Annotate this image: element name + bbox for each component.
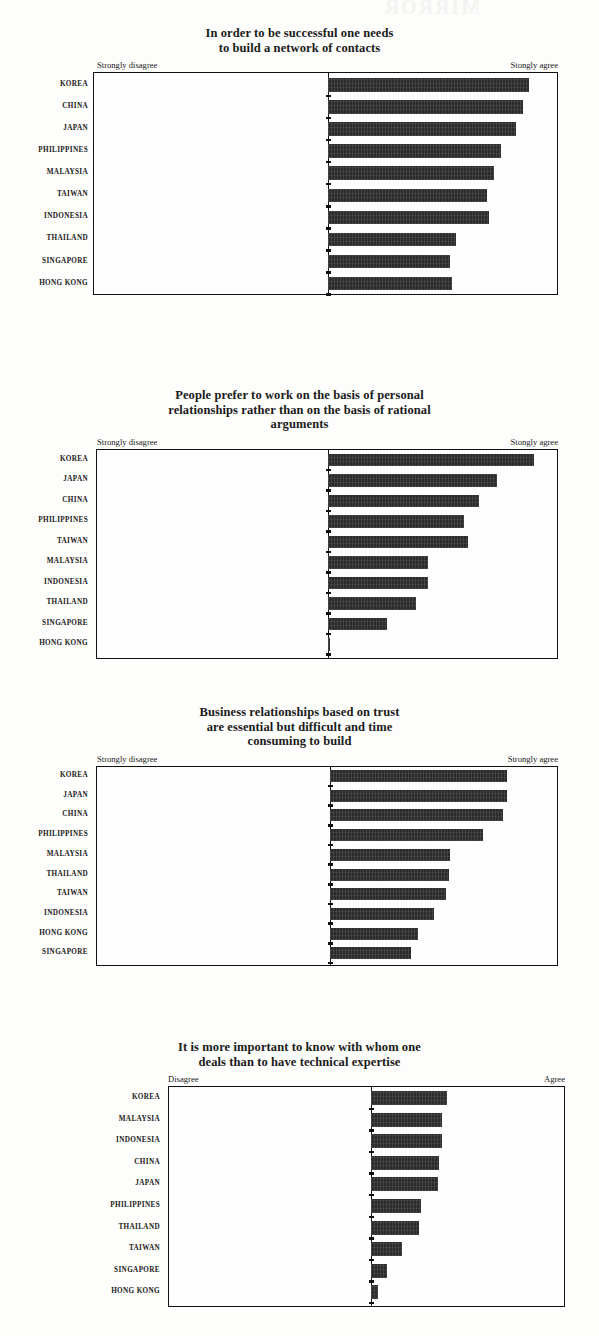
chart-4-title: It is more important to know with whom o…: [0, 1040, 599, 1069]
category-label: INDONESIA: [44, 578, 88, 586]
category-label: MALAYSIA: [47, 850, 88, 858]
category-label: JAPAN: [63, 791, 88, 799]
bar: [328, 233, 456, 247]
axis-tick: [369, 1259, 374, 1262]
bar: [330, 908, 434, 920]
bar: [328, 618, 387, 631]
chart-3-axis-label-left: Strongly disagree: [97, 753, 157, 766]
axis-tick: [328, 922, 333, 925]
category-label: MALAYSIA: [47, 168, 88, 176]
chart-1-plot-wrap: KOREACHINAJAPANPHILIPPINESMALAYSIATAIWAN…: [0, 72, 599, 300]
axis-tick: [326, 612, 331, 615]
axis-tick: [326, 117, 331, 120]
category-label: INDONESIA: [44, 212, 88, 220]
bar: [371, 1134, 442, 1148]
chart-2-plot-wrap: KOREAJAPANCHINAPHILIPPINESTAIWANMALAYSIA…: [0, 449, 599, 664]
axis-tick: [369, 1151, 374, 1154]
category-label: TAIWAN: [57, 190, 88, 198]
chart-business-relationships-trust: Business relationships based on trust ar…: [0, 705, 599, 971]
axis-tick: [328, 903, 333, 906]
axis-tick: [326, 633, 331, 636]
chart-2-axis-label-left: Strongly disagree: [97, 436, 157, 449]
chart-1-axis-labels: Strongly disagree Stongly agree: [97, 59, 558, 72]
bar: [328, 100, 523, 114]
chart-1-axis-label-left: Strongly disagree: [97, 59, 157, 72]
axis-tick: [326, 510, 331, 513]
chart-4-axis-labels: Disagree Agree: [168, 1073, 565, 1086]
axis-tick: [328, 863, 333, 866]
category-label: KOREA: [132, 1093, 160, 1101]
bar: [328, 144, 501, 158]
bar: [328, 255, 450, 269]
bar: [328, 474, 497, 487]
category-label: PHILIPPINES: [110, 1201, 160, 1209]
chart-4-plot-wrap: KOREAMALAYSIAINDONESIACHINAJAPANPHILIPPI…: [0, 1086, 599, 1312]
figure-page: MIRROR In order to be successful one nee…: [0, 0, 599, 1336]
axis-tick: [326, 95, 331, 98]
axis-tick: [326, 161, 331, 164]
category-label: PHILIPPINES: [38, 516, 88, 524]
bar: [328, 577, 428, 590]
bar: [371, 1156, 439, 1170]
bar: [328, 515, 464, 528]
axis-tick: [326, 489, 331, 492]
axis-tick: [326, 469, 331, 472]
category-label: HONG KONG: [111, 1287, 160, 1295]
axis-tick: [326, 653, 331, 656]
category-label: THAILAND: [46, 870, 88, 878]
bar: [328, 211, 489, 225]
axis-tick: [326, 205, 331, 208]
chart-4-axis-label-left: Disagree: [168, 1073, 199, 1086]
category-label: JAPAN: [63, 475, 88, 483]
bar: [330, 790, 507, 802]
category-label: PHILIPPINES: [38, 146, 88, 154]
bar: [328, 122, 516, 136]
bar: [371, 1113, 442, 1127]
category-label: SINGAPORE: [114, 1266, 160, 1274]
bar: [328, 189, 487, 203]
chart-4-axis-label-right: Agree: [544, 1073, 565, 1086]
chart-personal-relationships: People prefer to work on the basis of pe…: [0, 388, 599, 664]
category-label: JAPAN: [63, 124, 88, 132]
category-label: JAPAN: [135, 1179, 160, 1187]
chart-2-axis-label-right: Stongly agree: [511, 436, 559, 449]
category-label: SINGAPORE: [42, 619, 88, 627]
bar: [330, 829, 483, 841]
axis-tick: [326, 571, 331, 574]
chart-3-title: Business relationships based on trust ar…: [0, 705, 599, 749]
category-label: CHINA: [62, 810, 88, 818]
chart-3-axis-label-right: Strongly agree: [508, 753, 558, 766]
axis-tick: [369, 1237, 374, 1240]
chart-2-axis-labels: Strongly disagree Stongly agree: [97, 436, 558, 449]
chart-know-with-whom-one-deals: It is more important to know with whom o…: [0, 1040, 599, 1312]
axis-tick: [369, 1280, 374, 1283]
scan-bleed-artifact: MIRROR: [300, 0, 480, 16]
chart-2-plot-area: [96, 449, 558, 659]
axis-tick: [328, 883, 333, 886]
bar: [328, 454, 534, 467]
bar: [330, 809, 503, 821]
bar: [371, 1199, 421, 1213]
bar: [328, 536, 468, 549]
category-label: CHINA: [62, 102, 88, 110]
axis-tick: [369, 1216, 374, 1219]
axis-tick: [369, 1172, 374, 1175]
axis-tick: [328, 785, 333, 788]
category-label: SINGAPORE: [42, 948, 88, 956]
chart-2-title: People prefer to work on the basis of pe…: [0, 388, 599, 432]
bar: [371, 1242, 402, 1256]
category-label: THAILAND: [46, 234, 88, 242]
axis-tick: [328, 942, 333, 945]
bar: [371, 1285, 378, 1299]
axis-tick: [369, 1302, 374, 1305]
bar: [328, 78, 529, 92]
bar: [328, 277, 452, 291]
category-label: KOREA: [60, 771, 88, 779]
bar: [330, 849, 450, 861]
category-label: HONG KONG: [39, 639, 88, 647]
chart-1-title: In order to be successful one needs to b…: [0, 26, 599, 55]
chart-network-of-contacts: In order to be successful one needs to b…: [0, 26, 599, 300]
bar: [328, 597, 416, 610]
axis-tick: [369, 1194, 374, 1197]
chart-3-category-labels: KOREAJAPANCHINAPHILIPPINESMALAYSIATHAILA…: [0, 766, 88, 971]
